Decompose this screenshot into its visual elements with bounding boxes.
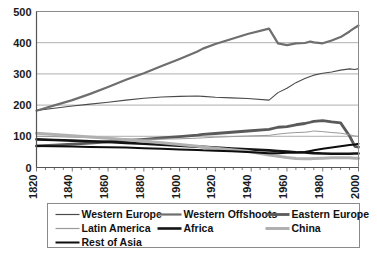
y-tick-label: 500: [13, 6, 31, 18]
legend-label: Rest of Asia: [82, 236, 142, 248]
legend-label: Western Europe: [82, 208, 162, 220]
legend-label: Western Offshoots: [184, 208, 278, 220]
x-tick-label: 1960: [277, 175, 289, 199]
x-tick-label: 1900: [170, 175, 182, 199]
y-tick-label: 400: [13, 37, 31, 49]
x-tick-label: 1820: [27, 175, 39, 199]
legend-label: Africa: [184, 222, 214, 234]
y-tick-label: 100: [13, 130, 31, 142]
x-tick-label: 1860: [98, 175, 110, 199]
chart-container: 0100200300400500182018401860188019001920…: [0, 0, 377, 255]
legend-label: Eastern Europe: [292, 208, 370, 220]
x-tick-label: 1940: [241, 175, 253, 199]
x-tick-label: 1920: [205, 175, 217, 199]
x-tick-label: 2000: [349, 175, 361, 199]
x-tick-label: 1880: [134, 175, 146, 199]
y-tick-label: 200: [13, 99, 31, 111]
line-chart: 0100200300400500182018401860188019001920…: [0, 0, 377, 255]
legend-label: China: [292, 222, 321, 234]
legend: Western EuropeWestern OffshootsEastern E…: [48, 204, 370, 249]
x-axis: 1820184018601880190019201940196019802000: [27, 168, 361, 199]
x-tick-label: 1840: [62, 175, 74, 199]
y-tick-label: 0: [25, 162, 31, 174]
y-axis: 0100200300400500: [13, 6, 31, 174]
y-tick-label: 300: [13, 68, 31, 80]
x-tick-label: 1980: [313, 175, 325, 199]
legend-label: Latin America: [82, 222, 151, 234]
